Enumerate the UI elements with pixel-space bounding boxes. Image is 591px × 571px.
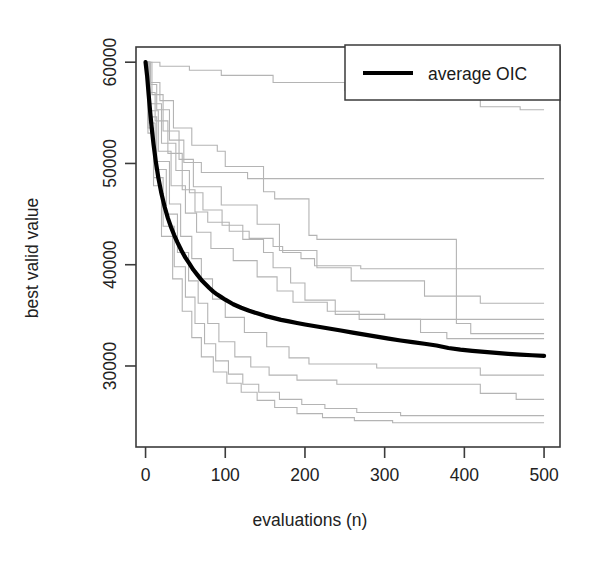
y-tick-label: 30000 (100, 341, 120, 390)
x-axis-title: evaluations (n) (253, 510, 368, 530)
legend-label-average-oic: average OIC (428, 64, 527, 84)
x-tick-label: 200 (290, 465, 319, 485)
y-axis-title: best valid value (22, 198, 42, 319)
x-tick-label: 300 (370, 465, 399, 485)
x-tick-label: 0 (141, 465, 151, 485)
y-tick-label: 50000 (100, 139, 120, 188)
chart-figure: 0100200300400500 30000400005000060000 ev… (0, 0, 591, 571)
y-tick-label: 60000 (100, 38, 120, 87)
y-tick-label: 40000 (100, 240, 120, 289)
best-valid-value-line-chart: 0100200300400500 30000400005000060000 ev… (0, 0, 591, 571)
chart-legend: average OIC (345, 45, 560, 100)
x-tick-label: 400 (450, 465, 479, 485)
x-tick-label: 100 (211, 465, 240, 485)
x-tick-label: 500 (529, 465, 558, 485)
